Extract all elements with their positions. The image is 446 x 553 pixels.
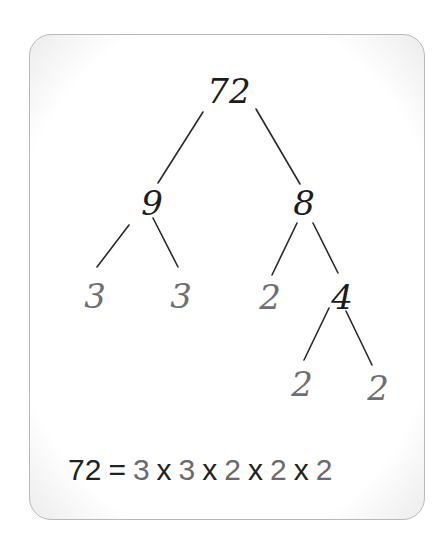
edge-72-9 [158, 112, 203, 183]
node-8: 8 [293, 186, 315, 220]
edge-8-2 [272, 223, 297, 275]
equation-times-1: x [157, 453, 172, 486]
node-root-72: 72 [207, 74, 250, 108]
prime-factorization-equation: 72=3x3x2x2x2 [68, 455, 339, 485]
node-4: 4 [331, 280, 353, 314]
equation-factor-3: 2 [224, 453, 241, 486]
node-9: 9 [141, 186, 163, 220]
equation-factor-5: 2 [316, 453, 333, 486]
edge-8-4 [313, 223, 338, 273]
equation-factor-1: 3 [133, 453, 150, 486]
edge-9-3b [153, 218, 178, 267]
equation-times-4: x [294, 453, 309, 486]
node-prime-2b: 2 [291, 367, 313, 401]
edge-4-2b [346, 311, 372, 365]
equation-factor-2: 3 [179, 453, 196, 486]
edge-72-8 [256, 109, 300, 184]
equation-factor-4: 2 [270, 453, 287, 486]
node-prime-3a: 3 [84, 279, 106, 313]
node-prime-3b: 3 [170, 279, 192, 313]
equation-times-2: x [202, 453, 217, 486]
equation-times-3: x [248, 453, 263, 486]
equation-lhs: 72 [68, 453, 101, 486]
node-prime-2a: 2 [259, 280, 281, 314]
edge-4-2a [304, 308, 329, 360]
node-prime-2c: 2 [367, 371, 389, 405]
equation-equals: = [108, 453, 126, 486]
edge-9-3a [97, 225, 129, 267]
